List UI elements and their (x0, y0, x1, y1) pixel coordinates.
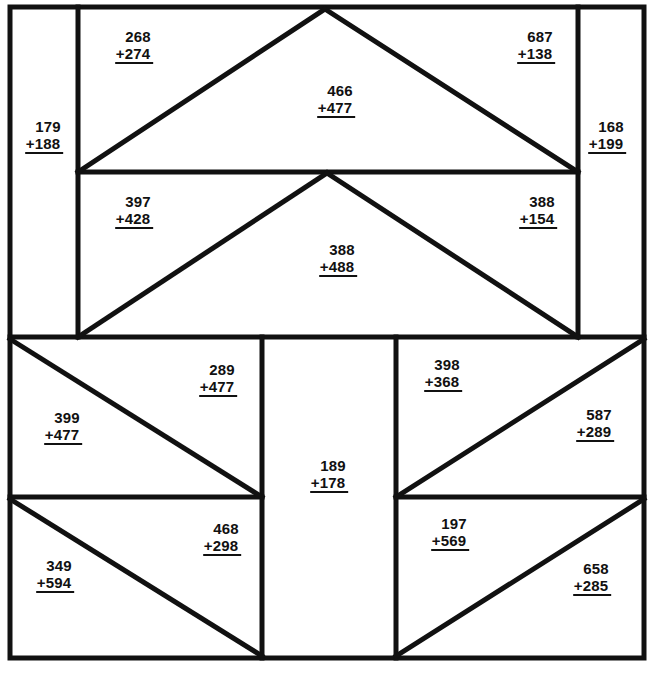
addition-problem: 587+289 (576, 406, 614, 442)
addend-bottom: +594 (36, 574, 74, 593)
addition-problem: 466+477 (317, 82, 355, 118)
addend-top: 468 (203, 520, 241, 537)
worksheet-canvas: 179+188268+274466+477687+138168+199397+4… (0, 0, 652, 673)
addition-problem: 468+298 (203, 520, 241, 556)
addend-top: 587 (576, 406, 614, 423)
addend-bottom: +154 (519, 210, 557, 229)
addend-top: 388 (319, 241, 357, 258)
addition-problem: 658+285 (573, 560, 611, 596)
addition-problem: 179+188 (25, 118, 63, 154)
addend-top: 189 (310, 457, 348, 474)
addend-top: 349 (36, 557, 74, 574)
addend-bottom: +188 (25, 135, 63, 154)
addition-problem: 268+274 (115, 28, 153, 64)
addend-top: 197 (431, 515, 469, 532)
addend-top: 466 (317, 82, 355, 99)
addition-problem: 189+178 (310, 457, 348, 493)
addend-bottom: +178 (310, 474, 348, 493)
addend-bottom: +138 (517, 45, 555, 64)
addend-bottom: +289 (576, 423, 614, 442)
addition-problem: 397+428 (115, 193, 153, 229)
addend-bottom: +285 (573, 577, 611, 596)
addition-problem: 168+199 (588, 118, 626, 154)
addition-problem: 289+477 (199, 361, 237, 397)
addend-bottom: +298 (203, 537, 241, 556)
addition-problem: 388+154 (519, 193, 557, 229)
addition-problem: 398+368 (424, 356, 462, 392)
addition-problem: 388+488 (319, 241, 357, 277)
addend-bottom: +488 (319, 258, 357, 277)
addend-top: 268 (115, 28, 153, 45)
addend-bottom: +569 (431, 532, 469, 551)
addend-top: 179 (25, 118, 63, 135)
addend-bottom: +428 (115, 210, 153, 229)
problem-label-layer: 179+188268+274466+477687+138168+199397+4… (0, 0, 652, 673)
addend-top: 289 (199, 361, 237, 378)
addend-top: 658 (573, 560, 611, 577)
addition-problem: 349+594 (36, 557, 74, 593)
addend-bottom: +368 (424, 373, 462, 392)
addend-bottom: +274 (115, 45, 153, 64)
addition-problem: 399+477 (44, 409, 82, 445)
addend-bottom: +477 (44, 426, 82, 445)
addend-top: 168 (588, 118, 626, 135)
addend-top: 687 (517, 28, 555, 45)
addend-bottom: +477 (317, 99, 355, 118)
addend-top: 397 (115, 193, 153, 210)
addend-bottom: +477 (199, 378, 237, 397)
addition-problem: 197+569 (431, 515, 469, 551)
addend-bottom: +199 (588, 135, 626, 154)
addition-problem: 687+138 (517, 28, 555, 64)
addend-top: 399 (44, 409, 82, 426)
addend-top: 398 (424, 356, 462, 373)
addend-top: 388 (519, 193, 557, 210)
